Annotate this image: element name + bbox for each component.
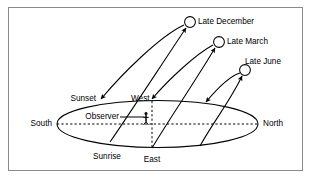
horizon-ellipse xyxy=(57,101,258,148)
sun-path-diagram: Late December Late March Late June Sunse… xyxy=(0,0,311,179)
label-east: East xyxy=(144,155,161,164)
sun-late-june xyxy=(240,65,251,76)
path-late-june-rising xyxy=(200,76,242,146)
label-late-june: Late June xyxy=(245,57,281,66)
label-late-march: Late March xyxy=(227,37,268,46)
diagram-canvas: Late December Late March Late June Sunse… xyxy=(0,0,311,179)
figure-frame xyxy=(9,8,303,171)
label-sunrise: Sunrise xyxy=(93,152,121,161)
label-sunset: Sunset xyxy=(71,94,97,103)
sun-late-december xyxy=(185,17,196,28)
path-late-march-setting xyxy=(152,45,213,99)
label-west: West xyxy=(131,94,150,103)
path-late-march-rising xyxy=(152,48,215,148)
sun-late-march xyxy=(214,37,225,48)
label-north: North xyxy=(263,119,283,128)
label-south: South xyxy=(31,119,53,128)
label-late-december: Late December xyxy=(198,17,254,26)
label-observer: Observer xyxy=(85,112,119,121)
path-late-june-setting xyxy=(206,73,240,102)
path-late-december-setting xyxy=(101,25,184,99)
observer-figure xyxy=(143,112,148,125)
